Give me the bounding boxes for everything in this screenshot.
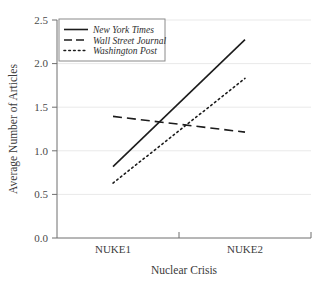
x-tick-label-nuke2: NUKE2 [227, 243, 263, 255]
legend-label-new-york-times: New York Times [92, 25, 154, 35]
y-axis: 2.5 2.0 1.5 1.0 0.5 0.0 [34, 14, 57, 244]
y-tick-label-0-5: 0.5 [34, 188, 48, 200]
series-line-wall-street-journal [113, 116, 245, 132]
legend-label-washington-post: Washington Post [93, 46, 157, 56]
y-tick-label-0-0: 0.0 [34, 232, 48, 244]
legend: New York Times Wall Street Journal Washi… [59, 19, 167, 61]
y-axis-title: Average Number of Articles [7, 64, 20, 194]
line-chart: 2.5 2.0 1.5 1.0 0.5 0.0 NUKE1 NUKE2 Nucl… [0, 0, 322, 287]
y-tick-label-1-0: 1.0 [34, 145, 48, 157]
chart-canvas: 2.5 2.0 1.5 1.0 0.5 0.0 NUKE1 NUKE2 Nucl… [0, 0, 322, 287]
x-axis-title: Nuclear Crisis [151, 264, 218, 276]
y-tick-label-1-5: 1.5 [34, 101, 48, 113]
y-tick-label-2-5: 2.5 [34, 14, 48, 26]
x-axis: NUKE1 NUKE2 [57, 232, 311, 255]
legend-label-wall-street-journal: Wall Street Journal [93, 36, 167, 46]
x-tick-label-nuke1: NUKE1 [95, 243, 131, 255]
series-line-washington-post [113, 78, 245, 183]
y-tick-label-2-0: 2.0 [34, 57, 48, 69]
